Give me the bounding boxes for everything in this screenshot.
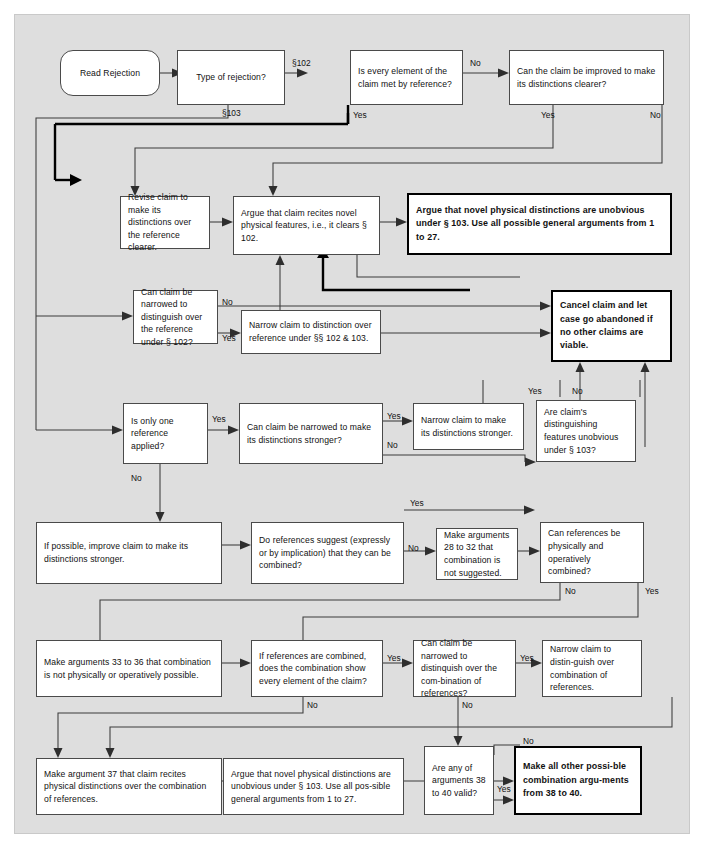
node-argue-novel-unobvious-bottom-label: Argue that novel physical distinctions a… <box>231 768 396 806</box>
node-refs-physically-combined[interactable]: Can references be physically and operati… <box>540 522 644 583</box>
node-refs-physically-combined-label: Can references be physically and operati… <box>548 527 636 577</box>
node-type-of-rejection[interactable]: Type of rejection? <box>177 50 285 105</box>
edge-label-no-8: No <box>565 586 576 596</box>
edge-label-yes-3: Yes <box>222 333 236 343</box>
node-revise-claim-label: Revise claim to make its distinctions ov… <box>128 191 202 254</box>
edge-label-no-1: No <box>470 58 481 68</box>
node-narrow-distinguish-combination-label: Narrow claim to distin-guish over combin… <box>550 643 634 693</box>
node-args-38-40-valid-label: Are any of arguments 38 to 40 valid? <box>432 762 486 800</box>
edge-label-no-6: No <box>131 473 142 483</box>
node-narrowed-over-combination[interactable]: Can claim be narrowed to distinquish ove… <box>413 640 516 697</box>
edge-label-yes-7: Yes <box>410 498 424 508</box>
node-make-args-33-36-label: Make arguments 33 to 36 that combination… <box>44 656 214 681</box>
node-distinguishing-unobvious-103[interactable]: Are claim's distinguishing features unob… <box>536 400 636 462</box>
node-cancel-claim[interactable]: Cancel claim and let case go abandoned i… <box>551 290 672 362</box>
edge-label-103: §103 <box>222 108 241 118</box>
node-if-refs-combined-show[interactable]: If references are combined, does the com… <box>251 640 383 697</box>
node-do-refs-suggest-label: Do references suggest (expressly or by i… <box>259 534 396 572</box>
node-narrow-distinguish-combination[interactable]: Narrow claim to distin-guish over combin… <box>542 640 642 697</box>
node-narrowed-distinguish-102[interactable]: Can claim be narrowed to distinguish ove… <box>133 290 218 344</box>
node-cancel-claim-label: Cancel claim and let case go abandoned i… <box>560 299 663 353</box>
node-only-one-reference[interactable]: Is only one reference applied? <box>123 403 208 464</box>
edge-label-102: §102 <box>292 58 311 68</box>
node-narrow-make-stronger-label: Narrow claim to make its distinctions st… <box>421 414 516 439</box>
node-argue-recites-novel-label: Argue that claim recites novel physical … <box>241 207 372 245</box>
edge-label-no-4: No <box>387 440 398 450</box>
edge-label-no-7: No <box>408 543 419 553</box>
node-make-args-28-32[interactable]: Make arguments 28 to 32 that combination… <box>436 528 518 580</box>
node-every-element-met-label: Is every element of the claim met by ref… <box>358 65 455 90</box>
node-read-rejection[interactable]: Read Rejection <box>60 50 160 96</box>
node-narrow-to-distinction-102-103-label: Narrow claim to distinction over referen… <box>249 319 373 344</box>
node-if-possible-improve[interactable]: If possible, improve claim to make its d… <box>36 522 222 584</box>
node-argue-novel-unobvious-bottom[interactable]: Argue that novel physical distinctions a… <box>223 758 404 815</box>
node-type-of-rejection-label: Type of rejection? <box>185 71 277 84</box>
node-revise-claim[interactable]: Revise claim to make its distinctions ov… <box>120 196 210 249</box>
flowchart-page: Read Rejection Type of rejection? Is eve… <box>0 0 702 853</box>
node-make-all-other-combination-label: Make all other possi-ble combination arg… <box>523 760 633 800</box>
node-make-arg-37[interactable]: Make argument 37 that claim recites phys… <box>36 758 222 815</box>
edge-label-yes-4: Yes <box>212 414 226 424</box>
node-args-38-40-valid[interactable]: Are any of arguments 38 to 40 valid? <box>424 746 494 815</box>
node-make-arg-37-label: Make argument 37 that claim recites phys… <box>44 768 214 806</box>
node-claim-improved-clearer[interactable]: Can the claim be improved to make its di… <box>509 50 664 105</box>
edge-label-yes-1: Yes <box>353 110 367 120</box>
edge-label-yes-6: Yes <box>528 386 542 396</box>
node-read-rejection-label: Read Rejection <box>68 67 152 80</box>
node-narrow-make-stronger[interactable]: Narrow claim to make its distinctions st… <box>413 403 524 450</box>
node-make-all-other-combination[interactable]: Make all other possi-ble combination arg… <box>514 746 642 815</box>
node-narrowed-stronger[interactable]: Can claim be narrowed to make its distin… <box>239 403 383 464</box>
edge-label-yes-10: Yes <box>520 653 534 663</box>
node-narrow-to-distinction-102-103[interactable]: Narrow claim to distinction over referen… <box>241 310 381 354</box>
edge-label-yes-5: Yes <box>387 411 401 421</box>
node-argue-novel-unobvious-103-label: Argue that novel physical distinctions a… <box>416 204 663 244</box>
node-distinguishing-unobvious-103-label: Are claim's distinguishing features unob… <box>544 406 628 456</box>
edge-label-yes-8: Yes <box>645 586 659 596</box>
node-make-args-33-36[interactable]: Make arguments 33 to 36 that combination… <box>36 640 222 697</box>
node-every-element-met[interactable]: Is every element of the claim met by ref… <box>350 50 463 105</box>
node-if-possible-improve-label: If possible, improve claim to make its d… <box>44 540 214 565</box>
node-do-refs-suggest[interactable]: Do references suggest (expressly or by i… <box>251 522 404 584</box>
edge-label-no-9: No <box>307 700 318 710</box>
node-narrowed-distinguish-102-label: Can claim be narrowed to distinguish ove… <box>141 286 210 349</box>
edge-label-no-2: No <box>650 110 661 120</box>
node-claim-improved-clearer-label: Can the claim be improved to make its di… <box>517 65 656 90</box>
node-only-one-reference-label: Is only one reference applied? <box>131 415 200 453</box>
node-argue-novel-unobvious-103[interactable]: Argue that novel physical distinctions a… <box>407 193 672 255</box>
edge-label-no-3: No <box>222 297 233 307</box>
edge-label-yes-11: Yes <box>497 784 511 794</box>
node-argue-recites-novel[interactable]: Argue that claim recites novel physical … <box>233 196 380 255</box>
edge-label-no-11: No <box>523 736 534 746</box>
edge-label-yes-2: Yes <box>541 110 555 120</box>
edge-label-no-10: No <box>462 700 473 710</box>
node-narrowed-over-combination-label: Can claim be narrowed to distinquish ove… <box>421 637 508 700</box>
edge-label-yes-9: Yes <box>387 653 401 663</box>
node-if-refs-combined-show-label: If references are combined, does the com… <box>259 650 375 688</box>
edge-label-no-5: No <box>572 386 583 396</box>
node-narrowed-stronger-label: Can claim be narrowed to make its distin… <box>247 421 375 446</box>
node-make-args-28-32-label: Make arguments 28 to 32 that combination… <box>444 529 510 579</box>
